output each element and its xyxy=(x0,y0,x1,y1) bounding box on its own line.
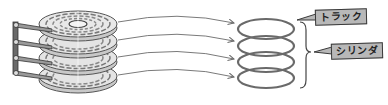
cylinder-label: シリンダ xyxy=(331,42,383,59)
arrow-1 xyxy=(118,16,234,23)
cylinder-callout-pointer xyxy=(314,47,332,54)
track-label: トラック xyxy=(315,8,367,25)
arrow-2 xyxy=(118,34,234,41)
arrow-4 xyxy=(118,69,234,77)
arrow-3 xyxy=(118,51,234,59)
track-rings xyxy=(238,19,294,88)
cylinder-brace xyxy=(300,22,311,88)
track-callout-pointer xyxy=(297,14,316,20)
platter-stack xyxy=(39,11,117,93)
arrows xyxy=(118,16,234,77)
